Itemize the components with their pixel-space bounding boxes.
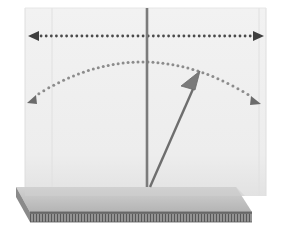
slab-hatched-edge bbox=[30, 214, 252, 222]
axis-dot bbox=[116, 35, 119, 38]
axis-dot bbox=[50, 35, 53, 38]
arc-dot bbox=[72, 74, 75, 77]
arc-dot bbox=[132, 61, 135, 64]
arc-dot bbox=[221, 79, 224, 82]
arc-dot bbox=[137, 61, 140, 64]
axis-dot bbox=[40, 35, 43, 38]
arc-dot bbox=[102, 65, 105, 68]
arc-dot bbox=[92, 68, 95, 71]
arc-dot bbox=[117, 62, 120, 65]
arc-dot bbox=[231, 84, 234, 87]
axis-dot bbox=[188, 35, 191, 38]
arc-dot bbox=[112, 63, 115, 66]
axis-dot bbox=[106, 35, 109, 38]
arc-dot bbox=[171, 63, 174, 66]
physics-diagram-svg bbox=[0, 0, 285, 230]
axis-dot bbox=[228, 35, 231, 38]
axis-dot bbox=[55, 35, 58, 38]
panel-slab-overlap bbox=[25, 187, 245, 196]
arc-dot bbox=[176, 64, 179, 67]
arc-dot bbox=[246, 93, 249, 96]
arc-dot bbox=[42, 89, 45, 92]
arc-dot bbox=[67, 77, 70, 80]
axis-dot bbox=[101, 35, 104, 38]
arc-dot bbox=[97, 66, 100, 69]
axis-dot bbox=[172, 35, 175, 38]
axis-dot bbox=[81, 35, 84, 38]
axis-dot bbox=[132, 35, 135, 38]
axis-dot bbox=[203, 35, 206, 38]
axis-dot bbox=[142, 35, 145, 38]
axis-dot bbox=[183, 35, 186, 38]
arc-dot bbox=[191, 68, 194, 71]
arc-dot bbox=[166, 62, 169, 65]
axis-dot bbox=[45, 35, 48, 38]
arc-dot bbox=[201, 71, 204, 74]
arc-dot bbox=[37, 92, 40, 95]
axis-dot bbox=[218, 35, 221, 38]
arc-dot bbox=[216, 77, 219, 80]
arc-dot bbox=[57, 81, 60, 84]
arc-dot bbox=[151, 61, 154, 64]
axis-dot bbox=[111, 35, 114, 38]
axis-dot bbox=[198, 35, 201, 38]
axis-dot bbox=[208, 35, 211, 38]
axis-dot bbox=[86, 35, 89, 38]
axis-dot bbox=[223, 35, 226, 38]
axis-dot bbox=[65, 35, 68, 38]
arc-dot bbox=[236, 87, 239, 90]
arc-dot bbox=[77, 73, 80, 76]
axis-dot bbox=[177, 35, 180, 38]
arc-dot bbox=[181, 65, 184, 68]
axis-dot bbox=[244, 35, 247, 38]
arc-dot bbox=[226, 82, 229, 85]
arc-dot bbox=[62, 79, 65, 82]
arc-dot bbox=[127, 61, 130, 64]
axis-dot bbox=[239, 35, 242, 38]
arc-dot bbox=[142, 61, 145, 64]
axis-dot bbox=[157, 35, 160, 38]
arc-dot bbox=[161, 62, 164, 65]
arc-dot bbox=[107, 64, 110, 67]
axis-dot bbox=[249, 35, 252, 38]
axis-dot bbox=[96, 35, 99, 38]
arc-dot bbox=[82, 71, 85, 74]
axis-dot bbox=[213, 35, 216, 38]
arc-dot bbox=[186, 67, 189, 70]
axis-dot bbox=[152, 35, 155, 38]
arc-dot bbox=[87, 69, 90, 72]
axis-dot bbox=[70, 35, 73, 38]
axis-dot bbox=[137, 35, 140, 38]
axis-dot bbox=[126, 35, 129, 38]
axis-dot bbox=[121, 35, 124, 38]
axis-dot bbox=[60, 35, 63, 38]
axis-dot bbox=[162, 35, 165, 38]
arc-dot bbox=[211, 75, 214, 78]
arc-dot bbox=[206, 73, 209, 76]
arc-dot bbox=[122, 62, 125, 65]
axis-dot bbox=[167, 35, 170, 38]
diagram-canvas bbox=[0, 0, 285, 230]
arc-dot bbox=[47, 86, 50, 89]
axis-dot bbox=[193, 35, 196, 38]
arc-dot bbox=[156, 61, 159, 64]
axis-dot bbox=[91, 35, 94, 38]
arc-dot bbox=[241, 90, 244, 93]
arc-dot bbox=[52, 84, 55, 87]
axis-dot bbox=[234, 35, 237, 38]
axis-dot bbox=[75, 35, 78, 38]
